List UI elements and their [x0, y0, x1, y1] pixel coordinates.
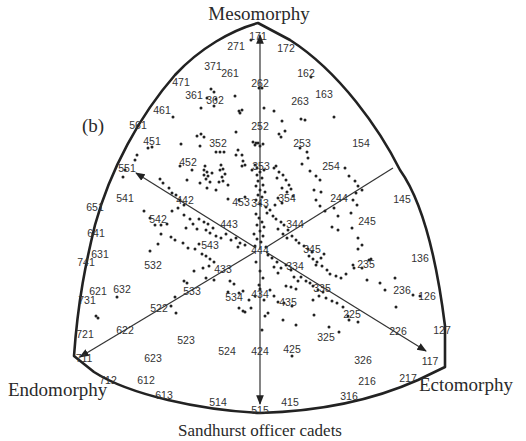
data-point: [353, 267, 356, 270]
data-point: [309, 282, 312, 285]
data-point: [221, 176, 224, 179]
data-point: [212, 227, 215, 230]
data-point: [324, 210, 327, 213]
data-point: [207, 175, 210, 178]
data-point: [241, 154, 244, 157]
data-point: [256, 238, 259, 241]
data-point: [218, 181, 221, 184]
somatotype-label: 515: [251, 404, 269, 416]
somatotype-label: 271: [227, 40, 245, 52]
data-point: [278, 171, 281, 174]
data-point: [198, 243, 201, 246]
somatotype-label: 145: [393, 193, 411, 205]
data-point: [201, 253, 204, 256]
data-point: [290, 188, 293, 191]
data-point: [345, 273, 348, 276]
data-point: [248, 299, 251, 302]
somatotype-labels: 1712711723712611624712623613622631634615…: [76, 30, 451, 416]
ectomorphy-upper-axis: [265, 168, 393, 248]
somatotype-label: 354: [278, 192, 296, 204]
data-point: [340, 277, 343, 280]
figure-caption: Sandhurst officer cadets: [178, 421, 342, 440]
data-point: [284, 130, 287, 133]
data-point: [333, 116, 336, 119]
somatochart: 1712711723712611624712623613622631634615…: [0, 0, 526, 441]
somatotype-label: 172: [277, 42, 295, 54]
data-point: [162, 182, 165, 185]
somatotype-label: 261: [221, 67, 239, 79]
somatotype-label: 353: [252, 160, 270, 172]
somatotype-label: 541: [116, 192, 134, 204]
somatotype-label: 235: [357, 258, 375, 270]
data-point: [320, 191, 323, 194]
data-point: [263, 226, 266, 229]
data-point: [208, 265, 211, 268]
data-point: [320, 257, 323, 260]
data-point: [183, 214, 186, 217]
data-point: [312, 258, 315, 261]
data-point: [258, 217, 261, 220]
data-point: [227, 198, 230, 201]
data-point: [264, 191, 267, 194]
data-point: [269, 289, 272, 292]
data-point: [295, 239, 298, 242]
data-point: [256, 174, 259, 177]
somatotype-label: 334: [286, 260, 304, 272]
data-point: [180, 143, 183, 146]
data-point: [293, 276, 296, 279]
somatotype-label: 253: [293, 137, 311, 149]
data-point: [259, 145, 262, 148]
somatotype-label: 543: [201, 239, 219, 251]
data-point: [222, 168, 225, 171]
data-point: [215, 235, 218, 238]
data-point: [205, 255, 208, 258]
data-point: [203, 221, 206, 224]
somatotype-label: 225: [343, 308, 361, 320]
data-point: [234, 95, 237, 98]
data-point: [355, 192, 358, 195]
data-point: [199, 182, 202, 185]
data-point: [315, 264, 318, 267]
somatotype-label: 171: [249, 30, 267, 42]
data-point: [301, 163, 304, 166]
somatotype-label: 325: [317, 331, 335, 343]
data-point: [220, 237, 223, 240]
somatotype-label: 361: [185, 89, 203, 101]
data-point: [290, 286, 293, 289]
data-point: [351, 227, 354, 230]
somatotype-label: 415: [281, 396, 299, 408]
data-point: [319, 179, 322, 182]
somatotype-label: 263: [291, 95, 309, 107]
data-point: [237, 246, 240, 249]
somatotype-label: 433: [214, 263, 232, 275]
data-point: [187, 247, 190, 250]
data-point: [182, 242, 185, 245]
data-point: [316, 261, 319, 264]
data-point: [395, 306, 398, 309]
somatotype-label: 442: [176, 194, 194, 206]
somatotype-label: 741: [77, 256, 95, 268]
data-point: [159, 178, 162, 181]
data-point: [223, 151, 226, 154]
data-point: [261, 221, 264, 224]
data-point: [280, 136, 283, 139]
data-point: [306, 151, 309, 154]
data-point: [170, 236, 173, 239]
data-point: [143, 210, 146, 213]
data-point: [172, 116, 175, 119]
somatotype-label: 335: [313, 282, 331, 294]
somatotype-label: 453: [232, 196, 250, 208]
data-point: [177, 207, 180, 210]
somatotype-label: 344: [286, 218, 304, 230]
data-point: [335, 275, 338, 278]
data-point: [269, 209, 272, 212]
data-point: [297, 280, 300, 283]
data-point: [198, 218, 201, 221]
data-point: [202, 267, 205, 270]
data-point: [323, 253, 326, 256]
data-point: [276, 261, 279, 264]
somatotype-label: 731: [78, 294, 96, 306]
data-point: [220, 164, 223, 167]
data-point: [257, 180, 260, 183]
data-point: [280, 267, 283, 270]
